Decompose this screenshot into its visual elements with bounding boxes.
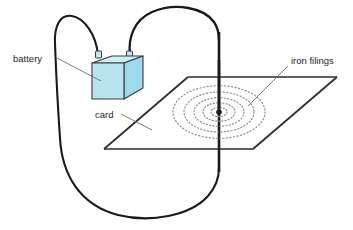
label-iron-filings: iron filings	[291, 55, 334, 66]
label-battery: battery	[13, 53, 42, 64]
battery-face-right	[124, 56, 143, 99]
rod-pierce-dot	[216, 109, 221, 114]
physics-diagram: battery card iron filings	[0, 0, 353, 230]
label-card: card	[95, 109, 113, 120]
wire-right-segment	[130, 7, 219, 54]
battery-face-front	[92, 63, 124, 99]
battery-body	[92, 51, 143, 99]
battery-terminal-left	[96, 51, 102, 58]
